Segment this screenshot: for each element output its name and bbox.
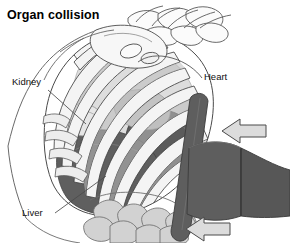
anatomy-illustration [0, 0, 290, 243]
seatbelt-lap-strap [187, 142, 290, 220]
label-liver: Liver [22, 208, 43, 218]
impact-arrow-upper [222, 119, 266, 143]
organ-collision-figure: Organ collision Kidney Heart Liver [0, 0, 290, 243]
page-title: Organ collision [7, 8, 100, 22]
label-kidney: Kidney [12, 77, 41, 87]
label-heart: Heart [204, 72, 227, 82]
